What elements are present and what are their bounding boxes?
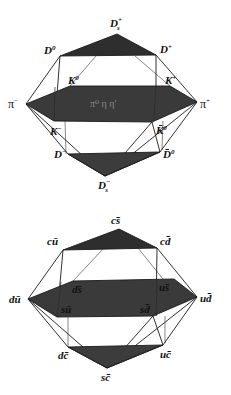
diagram-canvas: D+s D0 D+ π− π+ K0 K+ K− K̄0 D− D̄0 D−s … — [0, 0, 231, 395]
label-cs-bar: cs̄ — [111, 214, 120, 226]
label-ud-bar: ud̄ — [200, 292, 212, 304]
label-cu-bar: cū — [47, 235, 58, 247]
label-pi-plus: π+ — [200, 97, 210, 111]
middle-plane — [28, 279, 197, 317]
label-su-bar: sū — [60, 303, 71, 315]
label-d-minus: D− — [53, 148, 66, 160]
label-sc-bar: sc̄ — [100, 371, 111, 383]
label-sd-bar: sd̄ — [139, 303, 150, 315]
label-us-bar: us̄ — [159, 281, 170, 293]
label-k-plus: K+ — [164, 74, 176, 86]
quark-diagram: cs̄ cū cd̄ dū ud̄ ds̄ us̄ sū sd̄ dc̄ uc̄… — [9, 214, 212, 383]
label-cd-bar: cd̄ — [160, 235, 171, 247]
label-uc-bar: uc̄ — [160, 348, 171, 360]
label-center-neutral: π⁰ η η′ — [90, 98, 117, 109]
meson-diagram: D+s D0 D+ π− π+ K0 K+ K− K̄0 D− D̄0 D−s … — [8, 16, 210, 194]
label-k0-bar: K̄0 — [155, 124, 167, 136]
label-d0-bar: D̄0 — [162, 148, 175, 160]
label-d0: D0 — [43, 44, 56, 56]
top-triangle — [63, 229, 157, 250]
label-d-plus: D+ — [159, 43, 172, 55]
top-triangle — [60, 34, 156, 56]
label-ds-minus: D−s — [97, 178, 110, 194]
label-ds-plus: D+s — [109, 16, 122, 32]
label-ds-bar: ds̄ — [72, 283, 82, 295]
label-pi-minus: π− — [8, 97, 18, 111]
label-k0: K0 — [67, 74, 79, 86]
label-du-bar: dū — [9, 293, 21, 305]
label-dc-bar: dc̄ — [58, 349, 69, 361]
